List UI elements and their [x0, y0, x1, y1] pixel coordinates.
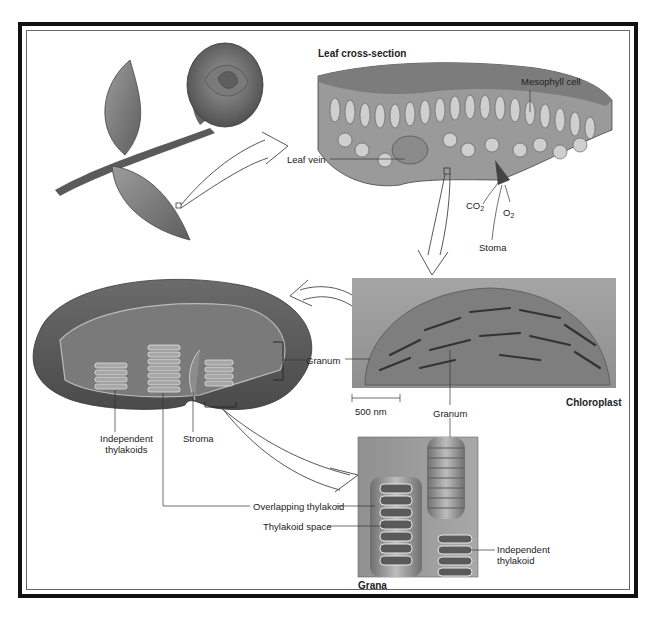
leaf-vein-label: Leaf vein — [287, 154, 326, 165]
thylakoid-space-label: Thylakoid space — [263, 521, 332, 532]
granum-label-micrograph: Granum — [433, 408, 467, 419]
chloroplast-title: Chloroplast — [566, 397, 622, 408]
chloroplast-micrograph — [352, 278, 616, 388]
stoma-label: Stoma — [479, 242, 506, 253]
leaf-cross-section-title: Leaf cross-section — [318, 48, 406, 59]
o2-label: O2 — [503, 207, 514, 221]
scale-bar-label: 500 nm — [355, 406, 387, 417]
overlapping-thylakoid-label: Overlapping thylakoid — [253, 501, 344, 512]
independent-thylakoid-label: Independentthylakoid — [497, 544, 550, 566]
chloroplast-3d-model — [33, 279, 312, 409]
granum-label-model: Granum — [306, 355, 340, 366]
rose-illustration — [55, 43, 263, 240]
arrow-leaf-to-micrograph — [418, 174, 450, 275]
arrow-model-to-grana — [220, 407, 358, 492]
arrow-rose-to-leaf — [181, 132, 288, 208]
grana-title: Grana — [358, 580, 387, 591]
grana-illustration — [358, 437, 478, 577]
co2-label: CO2 — [466, 200, 484, 214]
independent-thylakoids-label: Independentthylakoids — [100, 433, 153, 455]
stroma-label: Stroma — [183, 433, 214, 444]
arrow-micrograph-to-model — [290, 280, 352, 306]
mesophyll-cell-label: Mesophyll cell — [521, 76, 581, 87]
